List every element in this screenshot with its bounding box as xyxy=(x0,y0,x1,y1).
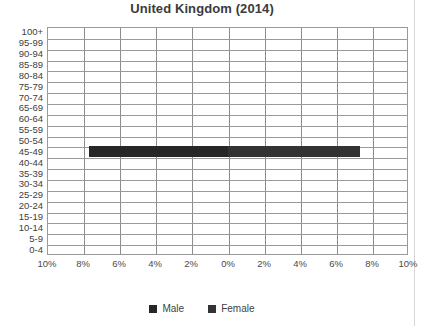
y-axis-tick-label: 30-34 xyxy=(19,179,43,189)
gridline-horizontal xyxy=(48,115,407,116)
y-axis-tick-label: 75-79 xyxy=(19,82,43,92)
x-axis-tick-label: 8% xyxy=(365,258,379,269)
legend-item-male: Male xyxy=(149,303,184,314)
gridline-horizontal xyxy=(48,104,407,105)
x-axis-tick-label: 8% xyxy=(76,258,90,269)
gridline-horizontal xyxy=(48,137,407,138)
gridline-horizontal xyxy=(48,202,407,203)
bar-female-45-49 xyxy=(228,146,360,157)
y-axis-tick-label: 85-89 xyxy=(19,60,43,70)
y-axis-tick-label: 95-99 xyxy=(19,38,43,48)
chart-title: United Kingdom (2014) xyxy=(0,1,404,16)
y-axis-tick-label: 65-69 xyxy=(19,103,43,113)
legend-label: Male xyxy=(162,303,184,314)
legend-item-female: Female xyxy=(208,303,254,314)
gridline-horizontal xyxy=(48,126,407,127)
x-axis-tick-label: 4% xyxy=(148,258,162,269)
y-axis-tick-label: 45-49 xyxy=(19,147,43,157)
gridline-horizontal xyxy=(48,61,407,62)
gridline-horizontal xyxy=(48,50,407,51)
gridline-horizontal xyxy=(48,234,407,235)
x-axis-tick-label: 0% xyxy=(221,258,235,269)
y-axis-tick-label: 10-14 xyxy=(19,223,43,233)
gridline-horizontal xyxy=(48,93,407,94)
plot-area xyxy=(47,27,408,255)
x-axis-labels: 10%8%6%4%2%0%2%4%6%8%10% xyxy=(47,258,408,272)
legend-swatch-icon xyxy=(149,305,157,313)
gridline-horizontal xyxy=(48,223,407,224)
gridline-horizontal xyxy=(48,158,407,159)
gridline-horizontal xyxy=(48,82,407,83)
y-axis-tick-label: 5-9 xyxy=(29,234,43,244)
y-axis-tick-label: 35-39 xyxy=(19,169,43,179)
y-axis-tick-label: 55-59 xyxy=(19,125,43,135)
x-axis-tick-label: 4% xyxy=(293,258,307,269)
legend-label: Female xyxy=(221,303,254,314)
gridline-horizontal xyxy=(48,39,407,40)
bar-male-45-49 xyxy=(89,146,228,157)
y-axis-tick-label: 100+ xyxy=(22,27,43,37)
y-axis-tick-label: 90-94 xyxy=(19,49,43,59)
y-axis-tick-label: 50-54 xyxy=(19,136,43,146)
y-axis-labels: 0-45-910-1415-1920-2425-2930-3435-3940-4… xyxy=(0,27,43,255)
y-axis-tick-label: 70-74 xyxy=(19,93,43,103)
y-axis-tick-label: 60-64 xyxy=(19,114,43,124)
gridline-horizontal xyxy=(48,245,407,246)
x-axis-tick-label: 6% xyxy=(112,258,126,269)
y-axis-tick-label: 25-29 xyxy=(19,190,43,200)
y-axis-tick-label: 15-19 xyxy=(19,212,43,222)
plot-wrapper xyxy=(47,27,408,255)
y-axis-tick-label: 20-24 xyxy=(19,201,43,211)
x-axis-tick-label: 2% xyxy=(184,258,198,269)
gridline-horizontal xyxy=(48,180,407,181)
gridline-horizontal xyxy=(48,169,407,170)
x-axis-tick-label: 6% xyxy=(329,258,343,269)
y-axis-tick-label: 0-4 xyxy=(29,245,43,255)
x-axis-tick-label: 2% xyxy=(257,258,271,269)
gridline-horizontal xyxy=(48,71,407,72)
gridline-horizontal xyxy=(48,191,407,192)
y-axis-tick-label: 40-44 xyxy=(19,158,43,168)
x-axis-tick-label: 10% xyxy=(37,258,56,269)
gridline-horizontal xyxy=(48,213,407,214)
legend-swatch-icon xyxy=(208,305,216,313)
x-axis-tick-label: 10% xyxy=(398,258,417,269)
chart-legend: MaleFemale xyxy=(0,303,404,314)
y-axis-tick-label: 80-84 xyxy=(19,71,43,81)
